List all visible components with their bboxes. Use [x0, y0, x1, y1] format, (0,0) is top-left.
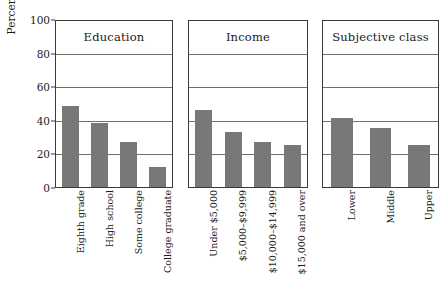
chart-panel: Subjective class — [322, 20, 439, 188]
category-labels: Under $5,000$5,000–$9,999$10,000–$14,999… — [188, 190, 308, 290]
y-tick-label: 80 — [26, 48, 50, 59]
y-axis-title: Percent with high intolerance — [2, 0, 20, 38]
category-label: Under $5,000 — [207, 190, 218, 257]
category-label-text: Under $5,000 — [208, 190, 219, 257]
chart-panel: Income — [188, 20, 308, 188]
bar — [254, 142, 271, 187]
category-label-text: Upper — [423, 190, 434, 220]
bar — [62, 106, 78, 187]
panel-plot-area: Subjective class — [323, 21, 438, 187]
y-tick-label: 100 — [26, 15, 50, 26]
y-tick-label: 40 — [26, 116, 50, 127]
y-tick-label: 20 — [26, 149, 50, 160]
category-label: Middle — [384, 190, 395, 224]
bar — [195, 110, 212, 187]
category-label: High school — [103, 190, 114, 247]
y-tick-label: 60 — [26, 82, 50, 93]
panel-plot-area: Income — [189, 21, 307, 187]
category-label: College graduate — [161, 190, 172, 273]
category-label-text: $10,000–$14,999 — [267, 190, 278, 273]
chart-panel: Education — [55, 20, 173, 188]
bar — [120, 142, 136, 187]
bar — [408, 145, 429, 187]
bar — [284, 145, 301, 187]
y-tick-label: 0 — [26, 183, 50, 194]
category-labels: Eighth gradeHigh schoolSome collegeColle… — [55, 190, 173, 290]
category-label: Lower — [345, 190, 356, 220]
bar-group — [189, 21, 307, 187]
category-label-text: High school — [104, 190, 115, 247]
bar — [331, 118, 352, 187]
bar-group — [323, 21, 438, 187]
category-label-text: $5,000–$9,999 — [237, 190, 248, 261]
category-label: $10,000–$14,999 — [266, 190, 277, 273]
category-label: Upper — [422, 190, 433, 220]
category-label: $15,000 and over — [295, 190, 306, 274]
bar — [149, 167, 165, 187]
chart-figure: Percent with high intolerance 0204060801… — [0, 0, 439, 292]
category-label-text: Some college — [133, 190, 144, 254]
panel-plot-area: Education — [56, 21, 172, 187]
category-label-text: $15,000 and over — [296, 190, 307, 274]
category-labels: LowerMiddleUpper — [322, 190, 439, 290]
y-axis-ticks: 020406080100 — [26, 20, 55, 188]
bar — [91, 123, 107, 187]
category-label-text: Middle — [385, 190, 396, 224]
category-label: Eighth grade — [74, 190, 85, 253]
category-label-text: College graduate — [162, 190, 173, 273]
bar-group — [56, 21, 172, 187]
y-axis-title-label: Percent with high intolerance — [2, 0, 20, 38]
category-label-text: Lower — [346, 190, 357, 220]
category-label: Some college — [132, 190, 143, 254]
category-label-text: Eighth grade — [75, 190, 86, 253]
bar — [370, 128, 391, 187]
bar — [225, 132, 242, 187]
category-label: $5,000–$9,999 — [236, 190, 247, 261]
